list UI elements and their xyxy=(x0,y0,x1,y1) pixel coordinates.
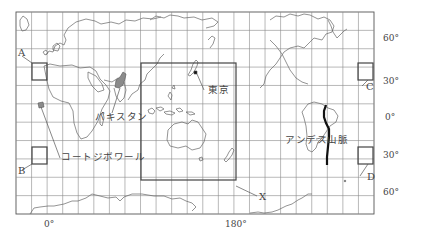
region-box-d xyxy=(358,147,373,164)
latitude-label-60n: 60° xyxy=(383,33,399,43)
box-label-a: A xyxy=(18,48,25,58)
region-box-c xyxy=(358,63,373,80)
place-label-pakistan: パキスタン xyxy=(95,112,148,122)
latitude-label-30s: 30° xyxy=(383,150,399,160)
region-box-x xyxy=(141,63,236,180)
latitude-label-0: 0° xyxy=(385,112,395,122)
graticule-grid xyxy=(16,12,374,214)
latitude-label-60s: 60° xyxy=(383,187,399,197)
region-box-b xyxy=(32,147,47,164)
place-label-cote-divoire: コートジボワール xyxy=(61,152,145,162)
longitude-label-0: 0° xyxy=(44,219,54,229)
leader-lines xyxy=(22,56,368,196)
world-map xyxy=(0,0,422,237)
box-label-d: D xyxy=(367,172,375,182)
tokyo-marker xyxy=(194,71,197,74)
highlighted-countries xyxy=(38,71,197,108)
coastlines xyxy=(20,14,347,214)
latitude-label-30n: 30° xyxy=(383,76,399,86)
place-label-tokyo: 東京 xyxy=(208,85,229,95)
box-label-c: C xyxy=(366,82,374,92)
longitude-label-180: 180° xyxy=(225,219,247,229)
box-label-b: B xyxy=(18,166,25,176)
place-label-andes: アンデス山脈 xyxy=(285,135,348,145)
box-label-x: X xyxy=(259,192,266,202)
